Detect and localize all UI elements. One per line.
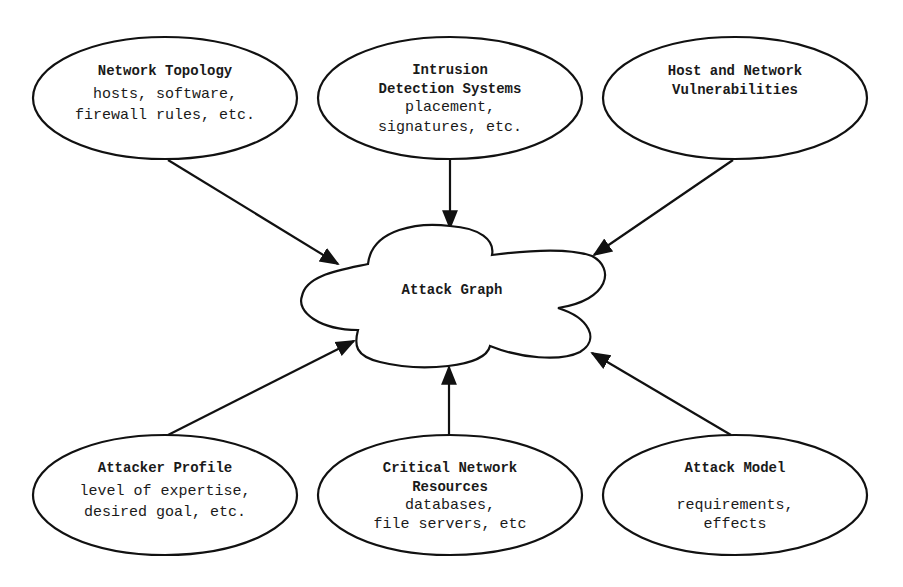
node-detail: file servers, etc	[373, 516, 526, 533]
edge-attacker-profile	[168, 341, 354, 435]
node-network-topology: Network Topology hosts, software, firewa…	[33, 37, 297, 159]
edge-host-network-vulnerabilities	[594, 160, 733, 255]
node-title: Attack Model	[685, 460, 786, 476]
node-detail: firewall rules, etc.	[75, 107, 255, 124]
node-detail: hosts, software,	[93, 86, 237, 103]
node-detail: effects	[703, 516, 766, 533]
node-title: Host and Network	[668, 63, 802, 79]
node-title: Intrusion	[412, 62, 488, 78]
node-detail: requirements,	[676, 497, 793, 514]
node-title: Vulnerabilities	[672, 82, 798, 98]
node-host-network-vulnerabilities: Host and Network Vulnerabilities	[603, 37, 867, 159]
node-detail: level of expertise,	[79, 483, 250, 500]
attack-graph-label: Attack Graph	[402, 282, 503, 298]
node-detail: signatures, etc.	[378, 119, 522, 136]
node-attacker-profile: Attacker Profile level of expertise, des…	[33, 435, 297, 555]
ellipse-shape	[603, 37, 867, 159]
node-title: Attacker Profile	[98, 460, 232, 476]
node-title: Resources	[412, 479, 488, 495]
node-title: Network Topology	[98, 63, 233, 79]
edge-attack-model	[592, 353, 731, 435]
node-detail: desired goal, etc.	[84, 504, 246, 521]
node-title: Critical Network	[383, 460, 517, 476]
attack-graph-diagram: Attack Graph Network Topology hosts, sof…	[0, 0, 903, 587]
node-detail: databases,	[405, 497, 495, 514]
node-detail: placement,	[405, 99, 495, 116]
node-title: Detection Systems	[379, 81, 522, 97]
edge-network-topology	[168, 160, 338, 264]
ellipse-shape	[603, 435, 867, 555]
ellipse-shape	[318, 37, 582, 159]
node-attack-model: Attack Model requirements, effects	[603, 435, 867, 555]
ellipse-shape	[318, 435, 582, 555]
node-intrusion-detection-systems: Intrusion Detection Systems placement, s…	[318, 37, 582, 159]
node-critical-network-resources: Critical Network Resources databases, fi…	[318, 435, 582, 555]
